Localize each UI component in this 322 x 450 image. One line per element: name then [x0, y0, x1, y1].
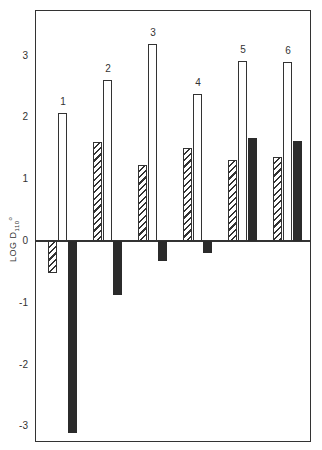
y-tick-label: -2: [4, 360, 28, 370]
bar-open: [283, 62, 292, 241]
group-number-label: 3: [146, 28, 160, 38]
y-tick-label: -1: [4, 298, 28, 308]
bar-hatched: [93, 142, 102, 241]
y-tick-label: -3: [4, 421, 28, 431]
y-tick-label: 2: [4, 112, 28, 122]
group-number-label: 1: [56, 97, 70, 107]
bar-hatched: [138, 165, 147, 241]
bar-open: [103, 80, 112, 241]
group-number-label: 6: [281, 46, 295, 56]
bar-open: [58, 113, 67, 241]
bar-hatched: [48, 241, 57, 273]
group-number-label: 4: [191, 78, 205, 88]
y-axis-label-sub: 110: [14, 220, 20, 231]
bar-solid: [293, 141, 302, 241]
bar-chart: -3-2-10123 LOG D110o 123456: [0, 0, 322, 450]
y-tick-label: 3: [4, 51, 28, 61]
bar-solid: [203, 241, 212, 253]
bar-solid: [248, 138, 257, 241]
bar-open: [193, 94, 202, 241]
y-axis-label-sup: o: [7, 217, 13, 221]
bar-hatched: [228, 160, 237, 241]
bar-solid: [68, 241, 77, 433]
bar-open: [148, 44, 157, 241]
y-axis-label-main: LOG D: [8, 231, 18, 262]
y-axis-label: LOG D110o: [7, 217, 20, 262]
group-number-label: 5: [236, 45, 250, 55]
bar-solid: [113, 241, 122, 295]
bar-open: [238, 61, 247, 241]
y-tick-label: 1: [4, 174, 28, 184]
group-number-label: 2: [101, 64, 115, 74]
bar-solid: [158, 241, 167, 261]
bar-hatched: [183, 148, 192, 241]
bar-hatched: [273, 157, 282, 241]
